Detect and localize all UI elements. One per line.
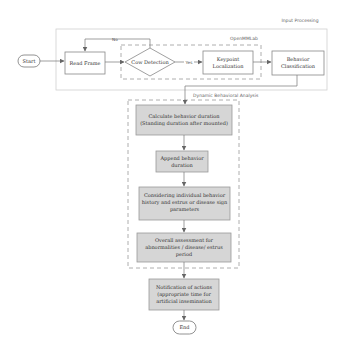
read-frame-label: Read Frame [69, 60, 100, 66]
node-read-frame: Read Frame [65, 52, 105, 74]
node-keypoint-localization: Keypoint Localization [203, 51, 253, 74]
behavior-classification-line2: Classification [281, 63, 316, 69]
considering-line3: parameters [170, 206, 200, 213]
keypoint-label-line2: Localization [213, 63, 245, 69]
edge-label-yes: Yes [185, 60, 193, 65]
overall-line1: Overall assessment for [155, 237, 214, 243]
append-duration-line2: duration [171, 162, 193, 168]
node-behavior-classification: Behavior Classification [272, 51, 324, 75]
node-start: Start [18, 55, 40, 67]
flowchart: Input Processing OpenMMLab Dynamic Behav… [0, 0, 348, 348]
keypoint-label-line1: Keypoint [217, 56, 239, 63]
node-notification: Notification of actions (appropriate tim… [149, 279, 219, 310]
group-label-input-processing: Input Processing [281, 18, 318, 23]
node-append-duration: Append behavior duration [156, 151, 208, 172]
node-calculate-duration: Calculate behavior duration (Standing du… [136, 105, 232, 135]
edge-label-no: No [112, 37, 118, 42]
overall-line3: period [176, 251, 193, 258]
behavior-classification-line1: Behavior [287, 56, 310, 62]
node-end: End [173, 321, 196, 334]
considering-line2: history and estrus or disease sign [142, 199, 228, 206]
append-duration-line1: Append behavior [159, 155, 204, 162]
group-label-openmmlab: OpenMMLab [230, 36, 258, 41]
notification-line3: artificial insemination [156, 298, 212, 304]
notification-line1: Notification of actions [156, 284, 213, 290]
considering-line1: Considering individual behavior [144, 192, 226, 199]
node-considering-history: Considering individual behavior history … [139, 187, 230, 220]
end-label: End [179, 324, 190, 330]
start-label: Start [23, 58, 36, 64]
node-overall-assessment: Overall assessment for abnormalities / d… [137, 233, 231, 262]
calculate-duration-line1: Calculate behavior duration [149, 113, 221, 119]
group-label-dynamic-analysis: Dynamic Behavioral Analysis [193, 93, 259, 98]
cow-detection-label: Cow Detection [131, 59, 169, 65]
notification-line2: (appropriate time for [157, 291, 211, 298]
overall-line2: abnormalities / disease/ estrus [145, 244, 223, 250]
calculate-duration-line2: (Standing duration after mounted) [140, 120, 228, 127]
